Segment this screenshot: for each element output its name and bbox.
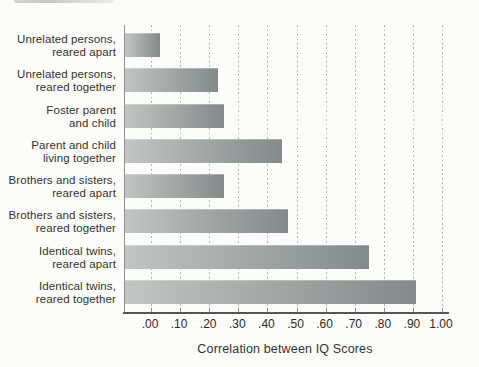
category-label-line2: reared together — [0, 293, 116, 306]
bar-3 — [125, 104, 224, 128]
gridline-.30 — [238, 25, 239, 312]
gridline-1.00 — [442, 25, 443, 312]
x-tick-label-1.00: 1.00 — [429, 317, 452, 331]
category-label-line2: reared apart — [0, 46, 116, 59]
category-label-line1: Brothers and sisters, — [0, 174, 116, 187]
bar-5 — [125, 174, 224, 198]
x-tick-label-.10: .10 — [171, 317, 188, 331]
gridline-.80 — [384, 25, 385, 312]
x-tick-label-.30: .30 — [229, 317, 246, 331]
bar-8 — [125, 280, 416, 304]
x-tick-label-.50: .50 — [287, 317, 304, 331]
x-tick-label-.80: .80 — [374, 317, 391, 331]
category-label-line1: Identical twins, — [0, 280, 116, 293]
gridline-.40 — [267, 25, 268, 312]
scan-artifact-streak — [14, 0, 114, 3]
category-label-line2: living together — [0, 152, 116, 165]
category-label-line1: Parent and child — [0, 139, 116, 152]
category-label-8: Identical twins,reared together — [0, 280, 116, 306]
gridline-.50 — [297, 25, 298, 312]
x-axis-title: Correlation between IQ Scores — [124, 342, 446, 356]
bar-2 — [125, 68, 218, 92]
category-label-4: Parent and childliving together — [0, 139, 116, 165]
category-label-line1: Brothers and sisters, — [0, 209, 116, 222]
category-label-line2: reared apart — [0, 187, 116, 200]
x-tick-label-.20: .20 — [200, 317, 217, 331]
x-tick-label-.70: .70 — [345, 317, 362, 331]
bar-1 — [125, 33, 160, 57]
gridline-.90 — [413, 25, 414, 312]
category-label-line1: Unrelated persons, — [0, 68, 116, 81]
bar-4 — [125, 139, 282, 163]
category-labels-column: Unrelated persons,reared apartUnrelated … — [0, 25, 116, 312]
category-label-line2: reared apart — [0, 258, 116, 271]
category-label-line2: reared together — [0, 81, 116, 94]
x-axis-line — [123, 312, 449, 314]
bar-6 — [125, 209, 288, 233]
category-label-2: Unrelated persons,reared together — [0, 68, 116, 94]
gridline-.70 — [355, 25, 356, 312]
category-label-1: Unrelated persons,reared apart — [0, 33, 116, 59]
x-tick-label-.00: .00 — [142, 317, 159, 331]
iq-correlation-bar-chart: Unrelated persons,reared apartUnrelated … — [0, 0, 479, 367]
plot-area — [124, 25, 447, 312]
category-label-6: Brothers and sisters,reared together — [0, 209, 116, 235]
category-label-3: Foster parentand child — [0, 104, 116, 130]
category-label-line2: reared together — [0, 222, 116, 235]
category-label-line1: Foster parent — [0, 104, 116, 117]
category-label-7: Identical twins,reared apart — [0, 245, 116, 271]
category-label-line2: and child — [0, 117, 116, 130]
x-tick-label-.60: .60 — [316, 317, 333, 331]
x-tick-label-.40: .40 — [258, 317, 275, 331]
gridline-.60 — [326, 25, 327, 312]
category-label-5: Brothers and sisters,reared apart — [0, 174, 116, 200]
category-label-line1: Identical twins, — [0, 245, 116, 258]
bar-7 — [125, 245, 369, 269]
x-tick-label-.90: .90 — [404, 317, 421, 331]
category-label-line1: Unrelated persons, — [0, 33, 116, 46]
